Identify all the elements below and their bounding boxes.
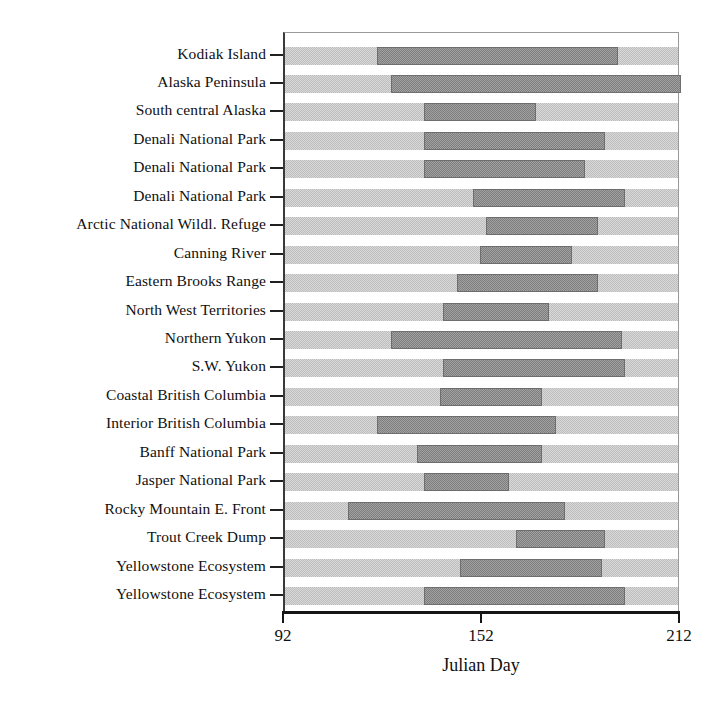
range-bar bbox=[391, 75, 681, 93]
range-bar bbox=[417, 445, 542, 463]
y-tick bbox=[270, 54, 283, 56]
range-bar bbox=[424, 103, 536, 121]
y-tick bbox=[270, 139, 283, 141]
y-axis-label: Alaska Peninsula bbox=[157, 74, 266, 90]
y-tick bbox=[270, 338, 283, 340]
y-axis-label: Yellowstone Ecosystem bbox=[116, 586, 266, 602]
y-tick bbox=[270, 566, 283, 568]
range-bar bbox=[348, 502, 566, 520]
y-axis-label: North West Territories bbox=[126, 302, 267, 318]
chart-row bbox=[285, 160, 678, 178]
y-axis-label: Banff National Park bbox=[140, 444, 266, 460]
row-background-band bbox=[285, 530, 678, 548]
y-axis-label: S.W. Yukon bbox=[192, 358, 266, 374]
chart-row bbox=[285, 274, 678, 292]
range-bar bbox=[480, 246, 572, 264]
y-tick bbox=[270, 281, 283, 283]
range-bar bbox=[457, 274, 599, 292]
chart-row bbox=[285, 331, 678, 349]
range-bar bbox=[440, 388, 542, 406]
y-tick bbox=[270, 167, 283, 169]
chart-row bbox=[285, 559, 678, 577]
chart-row bbox=[285, 103, 678, 121]
chart-row bbox=[285, 587, 678, 605]
chart-row bbox=[285, 445, 678, 463]
range-bar bbox=[391, 331, 622, 349]
chart-row bbox=[285, 530, 678, 548]
range-bar bbox=[377, 47, 618, 65]
y-axis-label: Kodiak Island bbox=[177, 46, 266, 62]
y-tick bbox=[270, 509, 283, 511]
x-tick-label: 92 bbox=[248, 626, 318, 646]
y-tick bbox=[270, 196, 283, 198]
y-axis-label: Denali National Park bbox=[133, 188, 266, 204]
chart-row bbox=[285, 388, 678, 406]
range-bar bbox=[424, 473, 510, 491]
y-axis-label: Denali National Park bbox=[133, 131, 266, 147]
y-axis-label: Yellowstone Ecosystem bbox=[116, 558, 266, 574]
range-bar bbox=[424, 587, 625, 605]
y-tick bbox=[270, 594, 283, 596]
chart-row bbox=[285, 473, 678, 491]
y-axis-label: Eastern Brooks Range bbox=[125, 273, 266, 289]
y-tick bbox=[270, 452, 283, 454]
y-axis-label: Trout Creek Dump bbox=[147, 529, 266, 545]
y-tick bbox=[270, 480, 283, 482]
x-tick-label: 152 bbox=[446, 626, 516, 646]
chart-row bbox=[285, 246, 678, 264]
x-tick bbox=[678, 611, 680, 623]
range-bar bbox=[460, 559, 602, 577]
y-axis-label: South central Alaska bbox=[136, 102, 266, 118]
range-bar bbox=[377, 416, 555, 434]
x-tick bbox=[480, 611, 482, 623]
y-tick bbox=[270, 537, 283, 539]
chart-row bbox=[285, 303, 678, 321]
range-bar bbox=[486, 217, 598, 235]
y-axis-label: Denali National Park bbox=[133, 159, 266, 175]
y-axis-label: Coastal British Columbia bbox=[106, 387, 266, 403]
plot-area bbox=[283, 32, 679, 612]
y-axis-label: Canning River bbox=[174, 245, 266, 261]
range-bar bbox=[516, 530, 605, 548]
y-axis-label: Arctic National Wildl. Refuge bbox=[76, 216, 266, 232]
range-bar bbox=[473, 189, 625, 207]
chart-row bbox=[285, 132, 678, 150]
chart-row bbox=[285, 502, 678, 520]
y-tick bbox=[270, 253, 283, 255]
y-tick bbox=[270, 82, 283, 84]
x-axis-title: Julian Day bbox=[283, 655, 679, 676]
range-bar bbox=[424, 132, 606, 150]
y-axis-label: Northern Yukon bbox=[165, 330, 266, 346]
y-tick bbox=[270, 366, 283, 368]
chart-row bbox=[285, 217, 678, 235]
chart-row bbox=[285, 416, 678, 434]
range-bar bbox=[443, 359, 625, 377]
range-bar bbox=[443, 303, 549, 321]
y-tick bbox=[270, 423, 283, 425]
x-tick-label: 212 bbox=[644, 626, 707, 646]
y-axis-label: Interior British Columbia bbox=[106, 415, 266, 431]
row-background-band bbox=[285, 217, 678, 235]
julian-day-range-chart: Kodiak IslandAlaska PeninsulaSouth centr… bbox=[0, 0, 707, 708]
chart-row bbox=[285, 189, 678, 207]
y-axis-label: Jasper National Park bbox=[136, 472, 266, 488]
y-tick bbox=[270, 224, 283, 226]
y-tick bbox=[270, 395, 283, 397]
y-tick bbox=[270, 110, 283, 112]
chart-row bbox=[285, 75, 678, 93]
y-axis-label: Rocky Mountain E. Front bbox=[104, 501, 266, 517]
x-tick bbox=[282, 611, 284, 623]
y-tick bbox=[270, 310, 283, 312]
range-bar bbox=[424, 160, 586, 178]
chart-row bbox=[285, 359, 678, 377]
chart-row bbox=[285, 47, 678, 65]
